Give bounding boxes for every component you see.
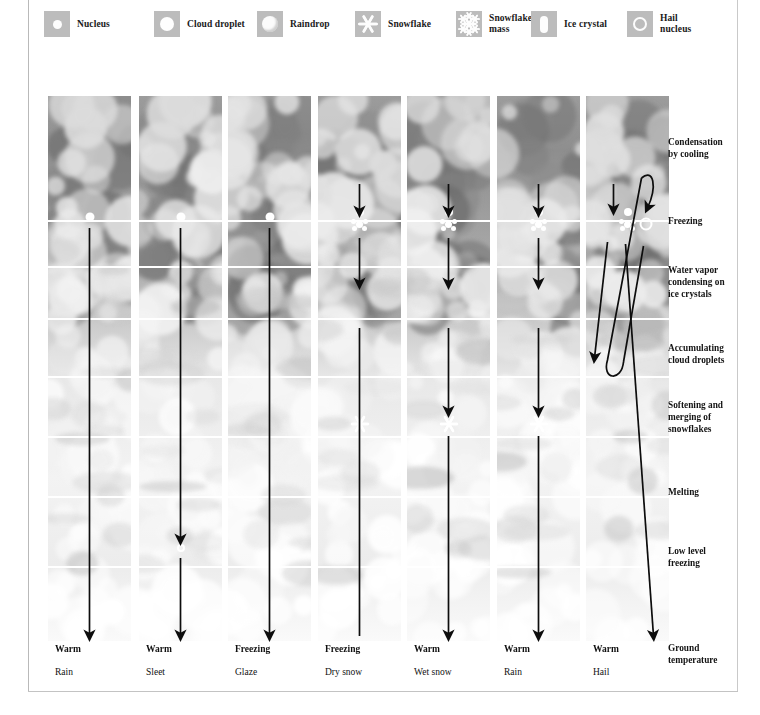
cloud-field	[318, 96, 401, 641]
band-line-vapor	[48, 266, 131, 268]
ice-crystal-cluster	[350, 216, 370, 232]
stage-label-softening: Softening and merging of snowflakes	[668, 400, 754, 436]
band-line-softening	[586, 376, 669, 378]
band-line-accumulating	[318, 318, 401, 320]
ground-strip-rain: Warm	[48, 637, 131, 661]
band-line-vapor	[586, 266, 669, 268]
stage-label-accumulating: Accumulating cloud droplets	[668, 343, 754, 367]
nucleus-particle	[535, 208, 543, 216]
band-line-low-freezing	[228, 496, 311, 498]
ground-strip-wet-snow: Warm	[407, 637, 490, 661]
nucleus-particle	[176, 213, 185, 222]
band-line-ground	[318, 566, 401, 568]
band-line-melting	[586, 436, 669, 438]
ground-temperature-rain: Warm	[55, 644, 81, 654]
nucleus-particle	[265, 213, 274, 222]
column-rain-2	[497, 96, 580, 641]
band-line-ground	[497, 566, 580, 568]
band-line-softening	[407, 376, 490, 378]
snowflake-mass-particle	[528, 413, 550, 435]
column-sleet	[139, 96, 222, 641]
precipitation-formation-diagram: NucleusCloud dropletRaindropSnowflakeSno…	[0, 0, 760, 715]
band-line-low-freezing	[497, 496, 580, 498]
band-line-low-freezing	[48, 496, 131, 498]
column-wet-snow	[407, 96, 490, 641]
band-line-melting	[497, 436, 580, 438]
band-line-melting	[139, 436, 222, 438]
band-line-vapor	[139, 266, 222, 268]
band-line-softening	[48, 376, 131, 378]
stage-label-condensation: Condensation by cooling	[668, 137, 754, 161]
stage-label-freezing: Freezing	[668, 216, 754, 228]
ground-temperature-hail: Warm	[593, 644, 619, 654]
band-line-vapor	[407, 266, 490, 268]
stage-label-low-freezing: Low level freezing	[668, 546, 754, 570]
column-caption-hail: Hail	[586, 667, 696, 677]
band-line-ground	[407, 566, 490, 568]
stage-label-melting: Melting	[668, 487, 754, 499]
nucleus-particle	[85, 213, 94, 222]
snowflake-mass-particle	[349, 413, 371, 435]
ice-crystal-cluster	[439, 216, 459, 232]
band-line-melting	[228, 436, 311, 438]
cloud-field	[139, 96, 222, 641]
band-line-ground	[139, 566, 222, 568]
stage-label-water-vapor: Water vapor condensing on ice crystals	[668, 265, 754, 301]
hail-nucleus-particle	[639, 218, 652, 231]
ground-strip-sleet: Warm	[139, 637, 222, 661]
band-line-accumulating	[407, 318, 490, 320]
band-line-low-freezing	[407, 496, 490, 498]
cloud-field	[586, 96, 669, 641]
band-line-ground	[48, 566, 131, 568]
snowflake-mass-particle	[438, 413, 460, 435]
cloud-field	[48, 96, 131, 641]
band-line-vapor	[318, 266, 401, 268]
band-line-vapor	[497, 266, 580, 268]
band-line-melting	[48, 436, 131, 438]
band-line-low-freezing	[139, 496, 222, 498]
ground-strip-dry-snow: Freezing	[318, 637, 401, 661]
band-line-accumulating	[139, 318, 222, 320]
band-line-ground	[228, 566, 311, 568]
diagram-body: WarmRainWarmSleetFreezingGlazeFreezingDr…	[0, 0, 760, 715]
ground-temperature-dry-snow: Freezing	[325, 644, 360, 654]
band-line-softening	[318, 376, 401, 378]
band-line-accumulating	[48, 318, 131, 320]
nucleus-particle	[356, 208, 364, 216]
band-line-melting	[318, 436, 401, 438]
column-hail	[586, 96, 669, 641]
ice-crystal-cluster	[529, 216, 549, 232]
ground-temperature-wet-snow: Warm	[414, 644, 440, 654]
ground-strip-rain-2: Warm	[497, 637, 580, 661]
band-line-melting	[407, 436, 490, 438]
cloud-field	[228, 96, 311, 641]
ground-temperature-sleet: Warm	[146, 644, 172, 654]
stage-label-ground-temp: Ground temperature	[668, 643, 754, 667]
ground-strip-glaze: Freezing	[228, 637, 311, 661]
ground-strip-hail: Warm	[586, 637, 669, 661]
column-dry-snow	[318, 96, 401, 641]
cloud-field	[497, 96, 580, 641]
band-line-softening	[139, 376, 222, 378]
column-rain	[48, 96, 131, 641]
band-line-softening	[497, 376, 580, 378]
band-line-accumulating	[586, 318, 669, 320]
band-line-vapor	[228, 266, 311, 268]
band-line-accumulating	[497, 318, 580, 320]
ground-temperature-glaze: Freezing	[235, 644, 270, 654]
cloud-field	[407, 96, 490, 641]
band-line-low-freezing	[318, 496, 401, 498]
band-line-low-freezing	[586, 496, 669, 498]
ground-temperature-rain-2: Warm	[504, 644, 530, 654]
nucleus-particle	[445, 208, 453, 216]
column-glaze	[228, 96, 311, 641]
band-line-accumulating	[228, 318, 311, 320]
nucleus-particle	[624, 208, 632, 216]
band-line-ground	[586, 566, 669, 568]
band-line-softening	[228, 376, 311, 378]
ice-crystal-cluster	[618, 216, 638, 232]
refreezing-drop	[177, 544, 185, 552]
